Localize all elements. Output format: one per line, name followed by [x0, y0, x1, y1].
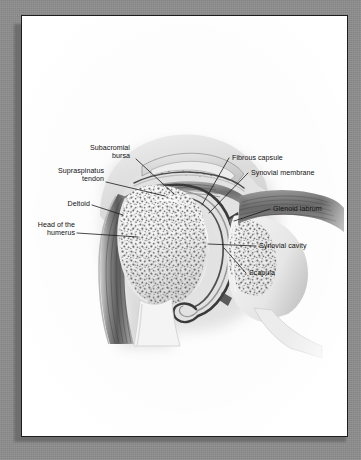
- textbook-page: Subacromial bursa Supraspinatus tendon D…: [21, 15, 348, 437]
- label-scapula: Scapula: [249, 269, 319, 277]
- screenshot-root: Subacromial bursa Supraspinatus tendon D…: [0, 0, 361, 460]
- label-head-of-the-humerus: Head of the humerus: [22, 221, 75, 238]
- label-supraspinatus-tendon: Supraspinatus tendon: [24, 167, 104, 184]
- label-synovial-cavity: Synovial cavity: [259, 242, 348, 250]
- label-glenoid-labrum: Glenoid labrum: [273, 205, 348, 213]
- label-deltoid: Deltoid: [32, 200, 90, 208]
- label-synovial-membrane: Synovial membrane: [251, 169, 348, 177]
- label-subacromial-bursa: Subacromial bursa: [44, 144, 130, 161]
- label-fibrous-capsule: Fibrous capsule: [232, 154, 342, 162]
